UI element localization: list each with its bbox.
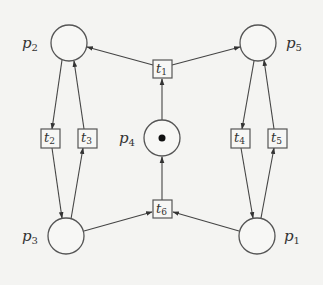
arc-p2-t2 — [52, 60, 62, 129]
place-p5: p5 — [240, 25, 302, 61]
place-p2: p2 — [22, 25, 87, 61]
place-label-p2: p2 — [22, 34, 38, 53]
transition-t3: t3 — [78, 129, 97, 148]
arc-t1-p2 — [87, 47, 153, 65]
arc-t2-p3 — [52, 148, 62, 218]
place-p1: p1 — [239, 218, 300, 254]
place-label-p4: p4 — [119, 129, 135, 148]
arc-p1-t5 — [261, 148, 274, 218]
arc-t4-p1 — [241, 148, 253, 218]
token-icon — [159, 135, 166, 142]
petri-net-diagram: p2 p5 p4 p3 p1 t1 t2 t3 t4 t5 t6 — [0, 0, 323, 285]
arc-t3-p2 — [74, 61, 84, 129]
transition-t1: t1 — [153, 60, 172, 78]
arc-p1-t6 — [173, 212, 239, 231]
arc-p3-t6 — [84, 212, 152, 231]
transition-t2: t2 — [41, 129, 60, 148]
place-label-p1: p1 — [284, 227, 300, 246]
transition-t4: t4 — [231, 129, 250, 148]
place-p4: p4 — [119, 120, 180, 156]
transition-t5: t5 — [268, 129, 287, 148]
place-label-p3: p3 — [22, 227, 38, 246]
arc-t1-p5 — [172, 47, 240, 65]
arc-t5-p5 — [264, 60, 274, 129]
arc-p3-t3 — [71, 148, 83, 219]
transition-t6: t6 — [153, 200, 172, 218]
place-p3: p3 — [22, 218, 84, 254]
place-label-p5: p5 — [286, 34, 302, 53]
arc-p5-t4 — [242, 61, 254, 129]
